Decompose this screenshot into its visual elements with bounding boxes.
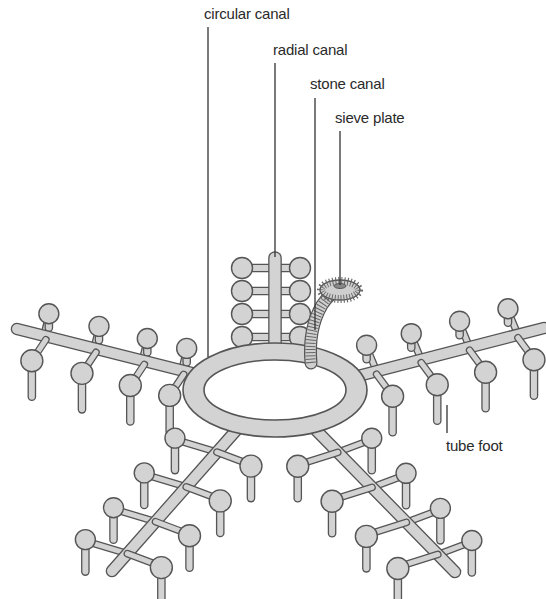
- tube-foot: [475, 361, 497, 408]
- ampulla: [232, 281, 253, 302]
- label-sieve-plate: sieve plate: [335, 109, 405, 126]
- ampulla: [475, 361, 497, 383]
- ampulla: [357, 335, 377, 355]
- ampulla: [321, 490, 343, 512]
- tube-foot: [71, 362, 93, 409]
- tube-foot-back: [89, 316, 109, 340]
- tube-foot-back: [137, 329, 157, 353]
- tube-foot-back: [396, 463, 416, 505]
- ampulla: [426, 374, 448, 396]
- tube-foot: [426, 374, 448, 421]
- ampulla: [150, 557, 172, 579]
- tube-foot: [119, 375, 141, 422]
- tube-foot: [387, 557, 409, 599]
- tube-foot: [209, 490, 231, 533]
- ampulla: [177, 338, 197, 358]
- ampulla: [498, 299, 518, 319]
- ampulla: [179, 525, 201, 547]
- ampulla: [137, 329, 157, 349]
- tube-foot: [179, 525, 201, 568]
- ampulla: [21, 350, 43, 372]
- ampulla: [159, 384, 181, 406]
- ampulla: [89, 316, 109, 336]
- ampulla: [232, 304, 253, 325]
- tube-foot: [321, 490, 343, 533]
- tube-foot-back: [75, 530, 95, 572]
- ampulla: [104, 498, 124, 518]
- ampulla: [355, 525, 377, 547]
- ampulla: [232, 258, 253, 279]
- tube-foot-back: [462, 530, 482, 572]
- arm-left: [17, 304, 197, 432]
- label-tube-foot: tube foot: [446, 437, 503, 454]
- radial-canal: [17, 329, 196, 374]
- ampulla: [362, 428, 382, 448]
- ampulla: [165, 428, 185, 448]
- arm-bottom-left: [75, 426, 262, 599]
- ampulla: [290, 281, 311, 302]
- tube-foot-back: [104, 498, 124, 540]
- water-vascular-system-diagram: [0, 0, 546, 599]
- tube-foot-back: [430, 498, 450, 540]
- ampulla: [287, 455, 309, 477]
- tube-foot: [159, 384, 181, 431]
- tube-foot: [523, 349, 545, 396]
- tube-foot-back: [134, 463, 154, 505]
- tube-foot: [355, 525, 377, 568]
- tube-foot: [287, 455, 309, 498]
- tube-foot: [21, 350, 43, 397]
- arm-right: [357, 299, 545, 432]
- tube-foot: [240, 455, 262, 498]
- ampulla: [450, 311, 470, 331]
- ampulla: [523, 349, 545, 371]
- tube-foot-back: [165, 428, 185, 470]
- ampulla: [290, 258, 311, 279]
- ampulla: [71, 362, 93, 384]
- label-stone-canal: stone canal: [310, 75, 385, 92]
- tube-foot-back: [39, 304, 59, 328]
- tube-foot: [150, 557, 172, 599]
- arm-top: [232, 258, 311, 353]
- ampulla: [382, 385, 404, 407]
- ampulla: [430, 498, 450, 518]
- ampulla: [401, 324, 421, 344]
- ampulla: [396, 463, 416, 483]
- ampulla: [290, 304, 311, 325]
- tube-foot-back: [177, 338, 197, 362]
- ampulla: [240, 455, 262, 477]
- ampulla: [39, 304, 59, 324]
- ampulla: [209, 490, 231, 512]
- ampulla: [134, 463, 154, 483]
- label-circular-canal: circular canal: [204, 5, 290, 22]
- ampulla: [462, 530, 482, 550]
- ampulla: [387, 557, 409, 579]
- tube-foot: [382, 385, 404, 432]
- circular-canal: [183, 343, 367, 437]
- label-radial-canal: radial canal: [273, 41, 347, 58]
- ampulla: [119, 375, 141, 397]
- ampulla: [75, 530, 95, 550]
- tube-foot-back: [362, 428, 382, 470]
